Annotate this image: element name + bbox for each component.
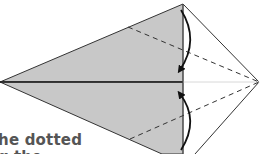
right-outline	[183, 4, 259, 154]
gray-flap-upper	[0, 4, 183, 82]
instruction-caption-line2: g the	[0, 148, 42, 154]
instruction-caption: he dotted	[0, 131, 82, 149]
